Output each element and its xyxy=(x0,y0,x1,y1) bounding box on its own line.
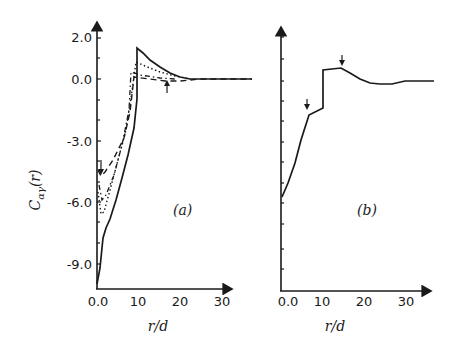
panel-a-xtick-30: 30 xyxy=(214,294,231,309)
panel-a-curve-dashed xyxy=(98,77,252,176)
panel-a-curve-solid xyxy=(97,48,252,284)
panel-a-ytick-m3: -3.0 xyxy=(67,134,92,149)
panel-a-xtick-10: 10 xyxy=(130,294,147,309)
panel-b-xtick-0: 0.0 xyxy=(278,294,299,309)
panel-b-label: (b) xyxy=(357,202,377,218)
panel-b-arrow-1 xyxy=(304,99,310,110)
panel-a-label: (a) xyxy=(173,202,192,218)
panel-a-ytick-m9: -9.0 xyxy=(67,257,92,272)
panel-a-y-label: Cαγ(r) xyxy=(27,169,46,210)
panel-a-ytick-m6: -6.0 xyxy=(67,195,92,210)
panel-a-curve-dotted xyxy=(98,62,190,214)
panel-a-ytick-0: 0.0 xyxy=(71,72,92,87)
panel-a: 2.0 0.0 -3.0 -6.0 -9.0 0.0 10 20 30 r/d … xyxy=(27,22,252,334)
panel-b-x-label: r/d xyxy=(325,318,345,334)
panel-b-xtick-30: 30 xyxy=(398,294,415,309)
panel-a-xtick-20: 20 xyxy=(172,294,189,309)
figure: 2.0 0.0 -3.0 -6.0 -9.0 0.0 10 20 30 r/d … xyxy=(0,0,455,350)
panel-b-xtick-10: 10 xyxy=(314,294,331,309)
panel-a-ytick-2: 2.0 xyxy=(71,30,92,45)
panel-b: 0.0 10 20 30 r/d (b) xyxy=(278,27,434,334)
panel-a-xtick-0: 0.0 xyxy=(88,294,109,309)
panel-a-arrow-up xyxy=(164,80,170,93)
panel-b-curve-solid xyxy=(282,68,434,197)
panel-a-x-label: r/d xyxy=(148,318,168,334)
panel-b-xtick-20: 20 xyxy=(356,294,373,309)
panel-b-arrow-2 xyxy=(339,55,345,66)
